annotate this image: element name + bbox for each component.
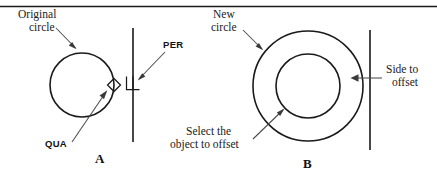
offset-command-figure: Original circle PER QUA A New [0,0,437,178]
per-osnap-label: PER [163,39,183,50]
original-circle-label-line2: circle [29,21,55,33]
panel-a-original-circle [50,53,114,117]
new-circle-label-line1: New [213,8,235,20]
select-object-label-line2: object to offset [170,138,240,151]
new-circle-leader [243,30,263,50]
original-circle-label-line1: Original [18,8,56,21]
side-to-offset-label-line2: offset [392,76,419,88]
panel-b-letter: B [303,156,312,171]
side-to-offset-leader [351,74,383,82]
panel-b-inner-circle [276,54,340,118]
side-to-offset-label-line1: Side to [386,63,419,75]
new-circle-label-line2: circle [211,21,237,33]
perpendicular-osnap-marker-icon [127,77,140,90]
figure-canvas: Original circle PER QUA A New [0,0,437,178]
select-object-label-line1: Select the [186,125,231,137]
per-label-leader [138,52,165,80]
qua-osnap-label: QUA [45,138,67,149]
panel-b-outer-circle [253,31,363,141]
select-object-leader [253,109,284,139]
original-circle-leader [56,28,77,49]
panel-a-letter: A [95,151,105,166]
